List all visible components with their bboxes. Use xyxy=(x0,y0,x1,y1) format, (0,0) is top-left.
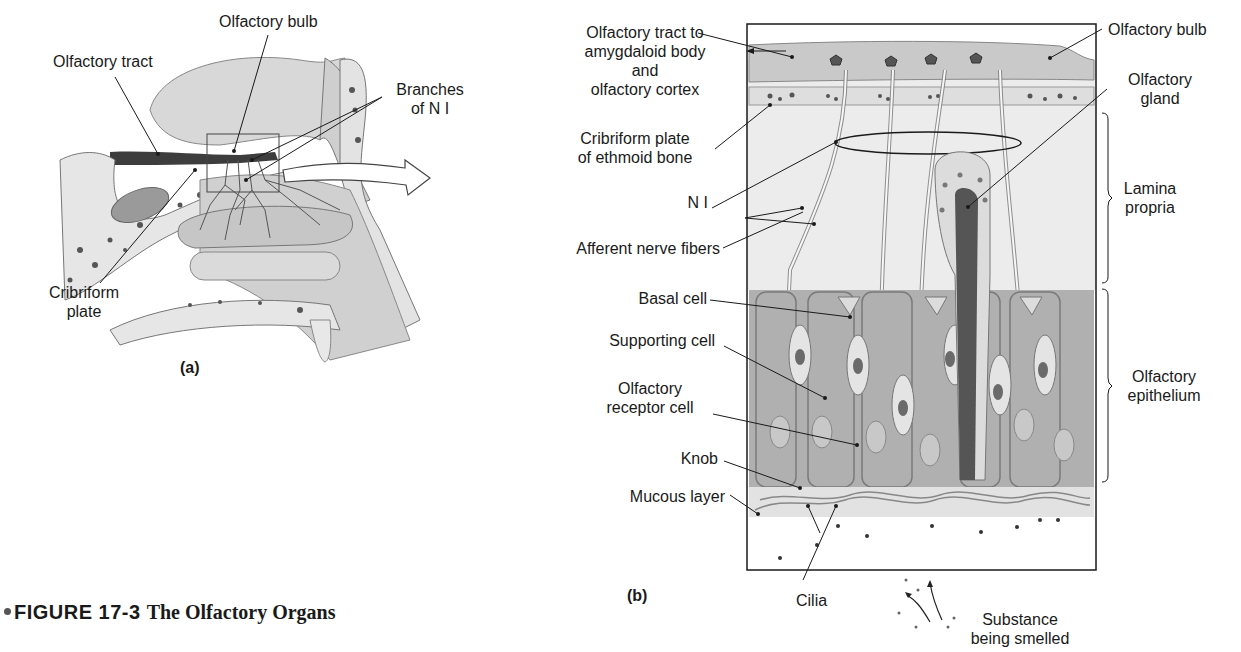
label-branches-line2: of N I xyxy=(385,99,475,118)
label-olfactory-bulb-b: Olfactory bulb xyxy=(1108,20,1207,39)
label-olfactory-tract-a: Olfactory tract xyxy=(53,52,153,71)
label-substance-being-smelled: Substance being smelled xyxy=(960,610,1080,648)
label-cribriform-line2: plate xyxy=(34,302,134,321)
label-gland-line2: gland xyxy=(1110,89,1210,108)
label-supporting-cell: Supporting cell xyxy=(560,331,715,350)
label-branches-line1: Branches xyxy=(385,80,475,99)
figure-caption: FIGURE 17-3The Olfactory Organs xyxy=(4,601,336,624)
label-receptor-line1: Olfactory xyxy=(590,379,710,398)
label-olfactory-tract-to-cortex: Olfactory tract to amygdaloid body and o… xyxy=(565,23,725,99)
label-tract-line4: olfactory cortex xyxy=(565,80,725,99)
label-olfactory-receptor-cell: Olfactory receptor cell xyxy=(590,379,710,417)
panel-letter-a: (a) xyxy=(180,359,200,377)
label-tract-line3: and xyxy=(565,61,725,80)
label-cilia: Cilia xyxy=(796,591,827,610)
bullet-icon xyxy=(4,608,11,615)
label-receptor-line2: receptor cell xyxy=(590,398,710,417)
label-tract-line2: amygdaloid body xyxy=(565,42,725,61)
label-cribriform-b-line2: of ethmoid bone xyxy=(555,148,715,167)
label-lamina-propria: Lamina propria xyxy=(1115,179,1185,217)
label-cribriform-line1: Cribriform xyxy=(34,283,134,302)
label-epithelium-line1: Olfactory xyxy=(1114,367,1214,386)
label-gland-line1: Olfactory xyxy=(1110,70,1210,89)
label-cribriform-b-line1: Cribriform plate xyxy=(555,129,715,148)
label-afferent-nerve-fibers: Afferent nerve fibers xyxy=(540,239,720,258)
label-mucous-layer: Mucous layer xyxy=(590,487,725,506)
panel-letter-b: (b) xyxy=(627,587,647,605)
label-n-i: N I xyxy=(650,193,708,212)
label-substance-line1: Substance xyxy=(960,610,1080,629)
olfactory-epithelium-illustration xyxy=(698,24,1112,629)
label-lamina-line2: propria xyxy=(1115,198,1185,217)
label-epithelium-line2: epithelium xyxy=(1114,386,1214,405)
label-cribriform-plate-ethmoid: Cribriform plate of ethmoid bone xyxy=(555,129,715,167)
label-olfactory-epithelium: Olfactory epithelium xyxy=(1114,367,1214,405)
label-tract-line1: Olfactory tract to xyxy=(565,23,725,42)
label-knob: Knob xyxy=(640,449,718,468)
label-cribriform-plate-a: Cribriform plate xyxy=(34,283,134,321)
label-branches-of-ni: Branches of N I xyxy=(385,80,475,118)
label-olfactory-bulb-a: Olfactory bulb xyxy=(219,12,318,31)
label-basal-cell: Basal cell xyxy=(580,289,707,308)
label-olfactory-gland: Olfactory gland xyxy=(1110,70,1210,108)
label-lamina-line1: Lamina xyxy=(1115,179,1185,198)
figure-title: The Olfactory Organs xyxy=(147,601,336,623)
label-substance-line2: being smelled xyxy=(960,629,1080,648)
figure-number: FIGURE 17-3 xyxy=(14,601,141,623)
